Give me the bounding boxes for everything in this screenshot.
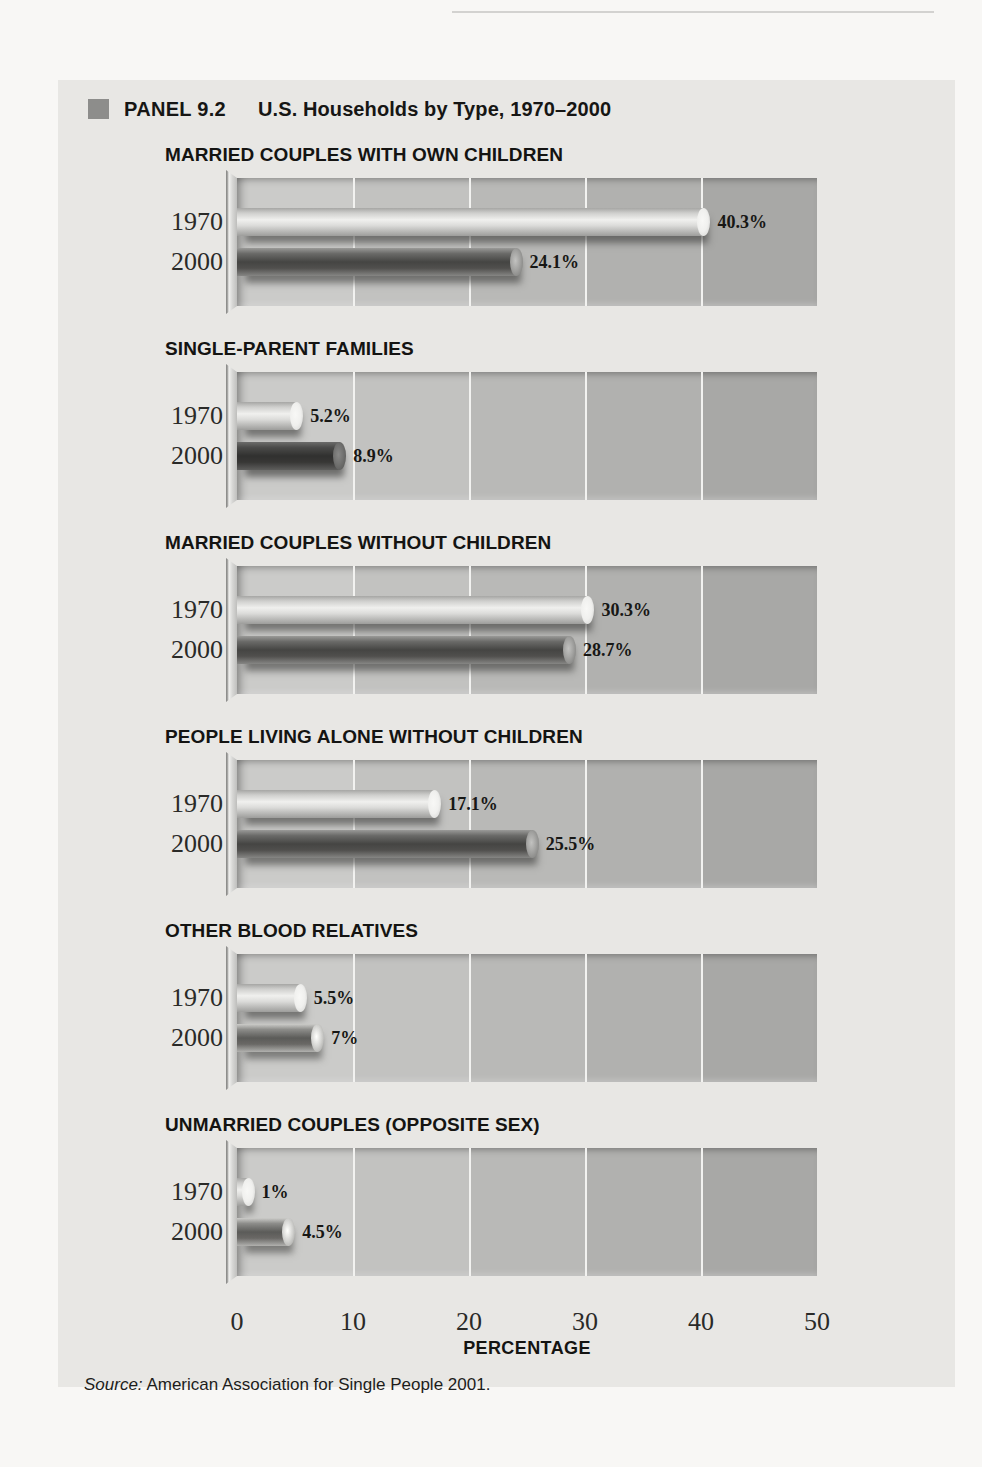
bar-1970 — [237, 402, 297, 430]
plot-area: 197017.1% 200025.5% — [237, 760, 817, 888]
cylinder-cap — [294, 984, 307, 1012]
gridline — [469, 178, 471, 306]
value-label: 30.3% — [601, 596, 651, 624]
axis-wall — [226, 558, 237, 702]
plot-area: 197040.3% 200024.1% — [237, 178, 817, 306]
bar-row: 19701% — [237, 1178, 817, 1206]
gridline — [585, 372, 587, 500]
section-title: OTHER BLOOD RELATIVES — [165, 920, 825, 942]
year-label: 1970 — [171, 208, 223, 236]
bar-row: 19705.2% — [237, 402, 817, 430]
gridline — [353, 1148, 355, 1276]
figure-panel: PANEL 9.2 U.S. Households by Type, 1970–… — [58, 80, 955, 1387]
source-note: Source: American Association for Single … — [84, 1374, 929, 1396]
chart-section: MARRIED COUPLES WITHOUT CHILDREN 197030.… — [165, 532, 825, 694]
bar-row: 197017.1% — [237, 790, 817, 818]
value-label: 5.5% — [314, 984, 355, 1012]
bar-1970 — [237, 984, 301, 1012]
value-label: 8.9% — [353, 442, 394, 470]
bar-row: 197040.3% — [237, 208, 817, 236]
gridline — [469, 372, 471, 500]
gridline — [585, 954, 587, 1082]
chart-section: OTHER BLOOD RELATIVES 19705.5% 20007% — [165, 920, 825, 1082]
axis-wall — [226, 752, 237, 896]
value-label: 25.5% — [546, 830, 596, 858]
bar-row: 20007% — [237, 1024, 817, 1052]
x-axis: 0 10 20 30 40 50 — [237, 1308, 817, 1336]
year-label: 2000 — [171, 248, 223, 276]
bar-2000 — [237, 1024, 318, 1052]
chart-section: MARRIED COUPLES WITH OWN CHILDREN 197040… — [165, 144, 825, 306]
chart-section: UNMARRIED COUPLES (OPPOSITE SEX) 19701% … — [165, 1114, 825, 1276]
axis-wall — [226, 1140, 237, 1284]
gridline — [469, 1148, 471, 1276]
plot-area: 19705.2% 20008.9% — [237, 372, 817, 500]
chart-section: PEOPLE LIVING ALONE WITHOUT CHILDREN 197… — [165, 726, 825, 888]
bar-row: 200028.7% — [237, 636, 817, 664]
gridline — [585, 178, 587, 306]
plot-area: 19705.5% 20007% — [237, 954, 817, 1082]
figure-header: PANEL 9.2 U.S. Households by Type, 1970–… — [84, 96, 929, 122]
source-text: American Association for Single People 2… — [143, 1375, 491, 1394]
axis-wall — [226, 364, 237, 508]
bar-1970 — [237, 790, 435, 818]
value-label: 7% — [331, 1024, 358, 1052]
value-label: 5.2% — [310, 402, 351, 430]
section-title: UNMARRIED COUPLES (OPPOSITE SEX) — [165, 1114, 825, 1136]
chart-column: MARRIED COUPLES WITH OWN CHILDREN 197040… — [165, 144, 825, 1360]
source-prefix: Source: — [84, 1375, 143, 1394]
gridline — [353, 954, 355, 1082]
year-label: 1970 — [171, 596, 223, 624]
bar-2000 — [237, 636, 570, 664]
value-label: 40.3% — [717, 208, 767, 236]
bar-2000 — [237, 1218, 289, 1246]
year-label: 1970 — [171, 790, 223, 818]
bar-row: 200025.5% — [237, 830, 817, 858]
cylinder-cap — [282, 1218, 295, 1246]
year-label: 2000 — [171, 1218, 223, 1246]
year-label: 2000 — [171, 1024, 223, 1052]
x-tick-label: 10 — [340, 1308, 366, 1336]
gridline — [701, 954, 703, 1082]
year-label: 2000 — [171, 442, 223, 470]
cylinder-cap — [581, 596, 594, 624]
gridline — [701, 760, 703, 888]
year-label: 1970 — [171, 984, 223, 1012]
gridline — [469, 566, 471, 694]
cylinder-cap — [510, 248, 523, 276]
year-label: 1970 — [171, 1178, 223, 1206]
cylinder-cap — [290, 402, 303, 430]
cylinder-cap — [311, 1024, 324, 1052]
section-title: MARRIED COUPLES WITHOUT CHILDREN — [165, 532, 825, 554]
x-tick-label: 50 — [804, 1308, 830, 1336]
value-label: 24.1% — [530, 248, 580, 276]
cylinder-cap — [242, 1178, 255, 1206]
gridline — [701, 1148, 703, 1276]
figure-title: U.S. Households by Type, 1970–2000 — [258, 98, 611, 121]
value-label: 17.1% — [448, 790, 498, 818]
section-title: PEOPLE LIVING ALONE WITHOUT CHILDREN — [165, 726, 825, 748]
cylinder-cap — [526, 830, 539, 858]
gridline — [701, 566, 703, 694]
gridline — [353, 566, 355, 694]
cylinder-cap — [333, 442, 346, 470]
bar-row: 19705.5% — [237, 984, 817, 1012]
year-label: 2000 — [171, 830, 223, 858]
section-title: MARRIED COUPLES WITH OWN CHILDREN — [165, 144, 825, 166]
gridline — [353, 372, 355, 500]
gridline — [469, 954, 471, 1082]
x-axis-title: PERCENTAGE — [237, 1336, 817, 1360]
gridline — [701, 372, 703, 500]
bar-row: 200024.1% — [237, 248, 817, 276]
section-title: SINGLE-PARENT FAMILIES — [165, 338, 825, 360]
value-label: 4.5% — [302, 1218, 343, 1246]
year-label: 2000 — [171, 636, 223, 664]
x-tick-label: 30 — [572, 1308, 598, 1336]
axis-wall — [226, 170, 237, 314]
x-tick-label: 40 — [688, 1308, 714, 1336]
gridline — [353, 178, 355, 306]
axis-wall — [226, 946, 237, 1090]
bar-2000 — [237, 830, 533, 858]
bar-1970 — [237, 208, 704, 236]
square-bullet-icon — [88, 99, 109, 119]
